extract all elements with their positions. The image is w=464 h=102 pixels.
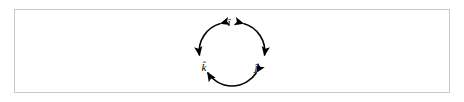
figure-root: î k̂ ĵ — [0, 0, 464, 102]
unit-vector-label-j: ĵ — [249, 62, 263, 73]
unit-vector-label-i: î — [222, 17, 236, 28]
unit-vector-label-k: k̂ — [197, 62, 211, 73]
arc-i-j — [244, 24, 265, 56]
arc-k-i — [199, 24, 220, 56]
arc-j-k — [208, 73, 257, 86]
